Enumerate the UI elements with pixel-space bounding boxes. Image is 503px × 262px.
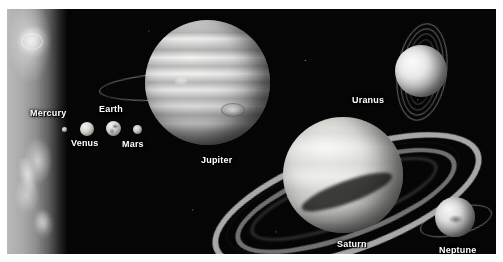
planet-neptune-group (419, 193, 495, 247)
planet-label-neptune: Neptune (439, 245, 476, 254)
sun-sunspot-ring-icon (21, 33, 43, 50)
planet-venus (80, 122, 94, 136)
planet-uranus (395, 45, 447, 97)
jupiter-cloud-spot (175, 78, 187, 84)
planet-mercury (62, 127, 67, 132)
planet-neptune (435, 197, 475, 237)
sun-limb (7, 9, 67, 254)
planet-label-venus: Venus (71, 138, 99, 148)
planet-label-earth: Earth (99, 104, 123, 114)
sun-prominence-secondary-icon (27, 205, 57, 245)
planet-earth (106, 121, 121, 136)
planet-label-mercury: Mercury (30, 108, 66, 118)
planet-label-saturn: Saturn (337, 239, 367, 249)
montage-image-plate: Mercury Venus Earth Mars Jupiter S (7, 9, 496, 254)
solar-system-figure: Mercury Venus Earth Mars Jupiter S (0, 0, 503, 262)
planet-label-uranus: Uranus (352, 95, 384, 105)
planet-uranus-group (383, 21, 465, 125)
